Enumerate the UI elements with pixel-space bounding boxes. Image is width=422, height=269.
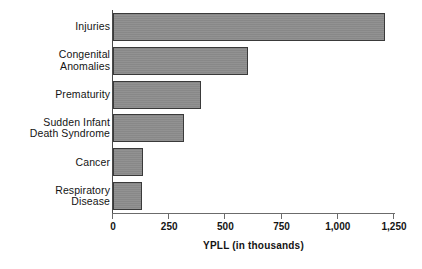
- x-tick-mark: [224, 214, 225, 219]
- category-label: Congenital Anomalies: [0, 49, 110, 72]
- category-axis-labels: InjuriesCongenital AnomaliesPrematurityS…: [0, 10, 110, 213]
- bar-prematurity: [113, 81, 201, 109]
- plot-area: [113, 10, 394, 213]
- category-label: Sudden Infant Death Syndrome: [0, 117, 110, 140]
- x-tick-label: 0: [110, 221, 116, 232]
- ypll-bar-chart: InjuriesCongenital AnomaliesPrematurityS…: [0, 0, 422, 269]
- x-axis-line: [112, 213, 395, 214]
- x-tick-label: 1,000: [325, 221, 350, 232]
- category-label: Injuries: [0, 21, 110, 33]
- bar-sudden-infant-death-syndrome: [113, 114, 184, 142]
- x-tick-mark: [168, 214, 169, 219]
- x-tick-label: 750: [273, 221, 290, 232]
- category-label: Prematurity: [0, 89, 110, 101]
- x-tick-mark: [112, 214, 113, 219]
- x-axis-title: YPLL (in thousands): [113, 240, 394, 251]
- category-label: Respiratory Disease: [0, 185, 110, 208]
- x-tick-mark: [281, 214, 282, 219]
- category-label: Cancer: [0, 157, 110, 169]
- bar-cancer: [113, 148, 143, 176]
- bar-respiratory-disease: [113, 182, 142, 210]
- x-tick-label: 250: [161, 221, 178, 232]
- x-tick-label: 500: [217, 221, 234, 232]
- y-axis-line: [112, 10, 113, 214]
- bar-congenital-anomalies: [113, 47, 248, 75]
- bar-injuries: [113, 13, 385, 41]
- x-tick-label: 1,250: [381, 221, 406, 232]
- x-tick-mark: [337, 214, 338, 219]
- x-tick-mark: [393, 214, 394, 219]
